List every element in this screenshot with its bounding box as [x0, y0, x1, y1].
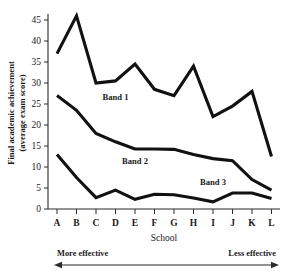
x-tick-label-B: B [73, 218, 80, 228]
chart-figure: Final academic achievement (average exam… [0, 0, 290, 271]
y-tick-label-20: 20 [32, 120, 42, 130]
y-tick-label-35: 35 [32, 57, 42, 67]
effectiveness-arrow-head-left [54, 262, 62, 268]
x-tick-label-G: G [170, 218, 178, 228]
y-axis-title: Final academic achievement (average exam… [6, 61, 27, 165]
series-label-band-2: Band 2 [122, 156, 148, 166]
y-tick-label-25: 25 [32, 99, 42, 109]
y-tick-label-30: 30 [32, 78, 42, 88]
x-axis-title: School [151, 233, 178, 243]
y-axis-title-line1: Final academic achievement [6, 61, 16, 165]
x-axis-ticks: A B C D E F G H I J K L [54, 209, 275, 228]
x-tick-label-E: E [132, 218, 138, 228]
less-effective-label: Less effective [228, 249, 276, 258]
series-line-band-1 [57, 16, 272, 157]
y-tick-label-40: 40 [32, 36, 42, 46]
series-line-band-3 [57, 154, 272, 201]
y-tick-label-10: 10 [32, 162, 42, 172]
y-tick-label-45: 45 [32, 15, 42, 25]
y-axis-ticks: 0 5 10 15 20 25 30 35 40 45 [32, 15, 49, 214]
line-chart: Final academic achievement (average exam… [0, 0, 290, 271]
x-tick-label-D: D [112, 218, 119, 228]
x-tick-label-I: I [211, 218, 215, 228]
effectiveness-arrow-head-right [271, 262, 279, 268]
y-tick-label-0: 0 [36, 204, 41, 214]
x-tick-label-A: A [54, 218, 61, 228]
series-label-band-3: Band 3 [200, 177, 226, 187]
x-tick-label-H: H [190, 218, 198, 228]
x-tick-label-K: K [248, 218, 256, 228]
x-tick-label-L: L [268, 218, 274, 228]
more-effective-label: More effective [57, 249, 109, 258]
effectiveness-scale: More effective Less effective [54, 249, 279, 268]
y-axis-title-line2: (average exam score) [17, 74, 27, 151]
y-tick-label-5: 5 [36, 183, 41, 193]
series-label-band-1: Band 1 [102, 92, 128, 102]
series-line-band-2 [57, 96, 272, 191]
x-tick-label-C: C [93, 218, 100, 228]
y-tick-label-15: 15 [32, 141, 42, 151]
x-tick-label-F: F [152, 218, 158, 228]
x-tick-label-J: J [230, 218, 235, 228]
